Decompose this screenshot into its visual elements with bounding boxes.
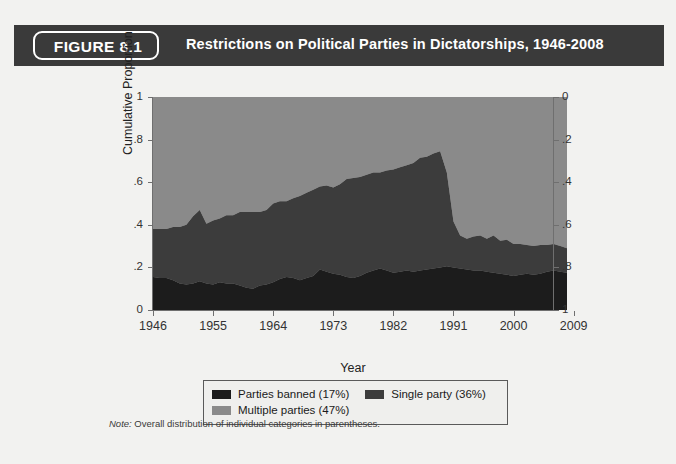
x-tick-label: 1946 [123,319,183,333]
legend-swatch-parties-banned [212,390,231,399]
left-tick-mark [148,97,153,98]
x-tick-label: 1991 [423,319,483,333]
figure-note-label: Note: [109,418,132,429]
figure-number-badge: FIGURE 8.1 [33,31,159,60]
legend-row-1: Parties banned (17%) Single party (36%) [212,386,499,402]
x-tick-label: 1955 [183,319,243,333]
x-tick-mark [453,311,454,316]
left-tick-mark [148,182,153,183]
figure-body: Cumulative Proportion 1.8.6.4.20 0.2.4.6… [14,66,664,446]
x-tick-mark [514,311,515,316]
right-tick-label: .8 [562,260,602,272]
x-tick-label: 2009 [544,319,604,333]
x-tick-label: 2000 [484,319,544,333]
right-tick-mark [554,267,559,268]
left-tick-mark [148,140,153,141]
x-tick-mark [213,311,214,316]
legend-item-single-party[interactable]: Single party (36%) [365,388,486,400]
x-tick-label: 1973 [303,319,363,333]
right-tick-mark [554,225,559,226]
x-tick-mark [393,311,394,316]
legend-label-single-party: Single party (36%) [391,388,486,400]
legend-label-parties-banned: Parties banned (17%) [238,388,349,400]
chart-plot-area [153,97,567,310]
right-tick-mark [554,310,559,311]
right-tick-label: .4 [562,175,602,187]
x-axis-label: Year [139,361,567,375]
left-tick-label: .2 [103,260,143,272]
x-tick-mark [333,311,334,316]
x-tick-mark [153,311,154,316]
left-tick-mark [148,225,153,226]
left-tick-label: 0 [103,303,143,315]
right-tick-mark [554,182,559,183]
right-axis-line [553,97,554,311]
x-tick-mark [574,311,575,316]
x-tick-label: 1982 [363,319,423,333]
right-tick-mark [554,97,559,98]
left-tick-label: 1 [103,90,143,102]
chart-plot-wrapper: Cumulative Proportion 1.8.6.4.20 0.2.4.6… [139,97,567,310]
left-tick-label: .8 [103,133,143,145]
right-tick-label: .2 [562,133,602,145]
legend-swatch-single-party [365,390,384,399]
figure-page: FIGURE 8.1 Restrictions on Political Par… [0,0,676,464]
figure-title: Restrictions on Political Parties in Dic… [186,36,604,52]
x-tick-mark [273,311,274,316]
left-tick-label: .6 [103,175,143,187]
legend-item-parties-banned[interactable]: Parties banned (17%) [212,388,349,400]
legend-swatch-multiple-parties [212,406,231,415]
legend-item-multiple-parties[interactable]: Multiple parties (47%) [212,404,349,416]
figure-note-text: Overall distribution of individual categ… [132,418,380,429]
figure-note: Note: Overall distribution of individual… [109,418,380,429]
right-tick-label: 1 [562,303,602,315]
left-tick-label: .4 [103,218,143,230]
x-tick-label: 1964 [243,319,303,333]
legend-row-2: Multiple parties (47%) [212,402,499,418]
stacked-area-svg [153,97,567,310]
right-tick-mark [554,140,559,141]
legend-label-multiple-parties: Multiple parties (47%) [238,404,349,416]
figure-number-label: FIGURE 8.1 [35,33,161,62]
left-tick-mark [148,267,153,268]
right-tick-label: .6 [562,218,602,230]
right-tick-label: 0 [562,90,602,102]
left-axis-line [152,97,153,311]
figure-header-band: FIGURE 8.1 Restrictions on Political Par… [14,25,664,66]
